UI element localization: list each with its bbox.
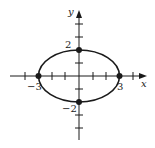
point-0-neg2 [76,99,82,105]
y-axis-label: y [68,7,74,17]
point-0-2 [76,47,82,53]
label-pos3: 3 [117,82,123,92]
ellipse-plot [0,0,155,148]
x-axis-label: x [141,79,147,89]
point-3-0 [117,73,123,79]
y-axis-arrow-icon [76,10,82,18]
label-neg3: −3 [27,82,42,92]
label-pos2: 2 [65,40,71,50]
point-neg3-0 [36,73,42,79]
label-neg2: −2 [62,104,77,114]
